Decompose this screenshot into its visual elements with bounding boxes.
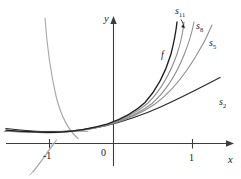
axes-group [6, 16, 234, 166]
curve-label-s2: s2 [219, 97, 226, 110]
curve-label-s5: s5 [209, 38, 216, 51]
y-axis-label: y [104, 14, 109, 25]
curve-f [6, 22, 177, 132]
curve-divergent-upper-left [45, 18, 78, 139]
curve-label-s11: s11 [175, 6, 185, 19]
x-tick-label-minus-one: -1 [43, 151, 51, 161]
y-axis-arrowhead [110, 16, 116, 24]
curve-label-f: f [161, 50, 164, 60]
x-axis-arrowhead [226, 140, 234, 147]
curve-label-s8: s8 [196, 21, 203, 34]
curve-s11 [6, 22, 184, 132]
plot-canvas [0, 0, 241, 179]
taylor-series-convergence-figure: s11 s8 s5 s2 f y x 0 -1 1 [0, 0, 241, 179]
s11-leader-line [181, 20, 185, 29]
curves-group [4, 18, 220, 175]
curve-s8 [6, 22, 194, 133]
x-tick-label-one: 1 [189, 153, 194, 163]
origin-label: 0 [101, 148, 106, 158]
x-axis-label: x [228, 155, 233, 166]
